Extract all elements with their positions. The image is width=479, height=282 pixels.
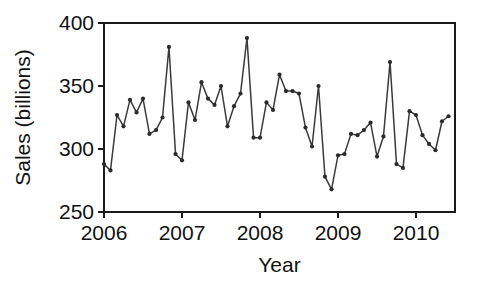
data-point bbox=[394, 162, 398, 166]
x-tick-label: 2009 bbox=[315, 221, 362, 244]
data-point bbox=[167, 45, 171, 49]
data-point bbox=[102, 162, 106, 166]
data-point bbox=[271, 108, 275, 112]
data-point bbox=[147, 132, 151, 136]
data-point bbox=[368, 120, 372, 124]
data-point bbox=[401, 166, 405, 170]
data-point bbox=[375, 154, 379, 158]
data-point bbox=[180, 158, 184, 162]
data-point bbox=[199, 80, 203, 84]
data-point bbox=[336, 153, 340, 157]
data-point bbox=[433, 148, 437, 152]
data-point bbox=[141, 97, 145, 101]
data-point bbox=[440, 119, 444, 123]
x-tick-label: 2008 bbox=[237, 221, 284, 244]
data-point bbox=[193, 118, 197, 122]
data-point bbox=[329, 187, 333, 191]
data-point bbox=[206, 97, 210, 101]
data-point bbox=[297, 91, 301, 95]
chart-canvas: 250300350400 20062007200820092010 Sales … bbox=[0, 0, 479, 282]
data-point bbox=[108, 168, 112, 172]
data-point bbox=[349, 132, 353, 136]
x-axis-title: Year bbox=[258, 253, 300, 276]
data-point bbox=[381, 134, 385, 138]
data-point bbox=[355, 133, 359, 137]
y-tick-label: 400 bbox=[59, 11, 94, 34]
data-point bbox=[212, 103, 216, 107]
data-point bbox=[154, 128, 158, 132]
data-point bbox=[290, 89, 294, 93]
data-point bbox=[264, 100, 268, 104]
x-tick-label: 2006 bbox=[81, 221, 128, 244]
data-point bbox=[277, 73, 281, 77]
data-point bbox=[173, 152, 177, 156]
y-tick-label: 300 bbox=[59, 137, 94, 160]
x-tick-label: 2010 bbox=[393, 221, 440, 244]
data-point bbox=[225, 124, 229, 128]
data-point bbox=[238, 91, 242, 95]
data-point bbox=[342, 152, 346, 156]
data-point bbox=[258, 136, 262, 140]
data-point bbox=[160, 115, 164, 119]
data-point bbox=[420, 133, 424, 137]
data-point bbox=[310, 144, 314, 148]
y-tick-label: 350 bbox=[59, 74, 94, 97]
data-point bbox=[323, 175, 327, 179]
data-point bbox=[115, 113, 119, 117]
data-point bbox=[186, 100, 190, 104]
data-point bbox=[284, 89, 288, 93]
data-point bbox=[414, 113, 418, 117]
data-point bbox=[303, 125, 307, 129]
data-point bbox=[219, 84, 223, 88]
data-point bbox=[316, 84, 320, 88]
data-point bbox=[388, 60, 392, 64]
data-point bbox=[121, 124, 125, 128]
data-point bbox=[362, 128, 366, 132]
data-point bbox=[427, 142, 431, 146]
data-point bbox=[446, 114, 450, 118]
x-tick-label: 2007 bbox=[159, 221, 206, 244]
data-point bbox=[251, 136, 255, 140]
sales-line-chart: 250300350400 20062007200820092010 Sales … bbox=[0, 0, 479, 282]
y-axis-title: Sales (billions) bbox=[11, 49, 34, 186]
data-point bbox=[232, 104, 236, 108]
data-point bbox=[245, 36, 249, 40]
y-tick-label: 250 bbox=[59, 200, 94, 223]
data-point bbox=[407, 109, 411, 113]
data-point bbox=[128, 98, 132, 102]
data-point bbox=[134, 110, 138, 114]
